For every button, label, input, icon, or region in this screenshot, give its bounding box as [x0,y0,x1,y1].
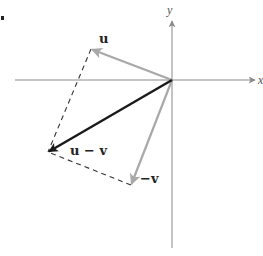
vector-neg-v-arrow [132,80,173,184]
vector-u-minus-v-arrow [49,80,172,152]
vector-diagram: x y u −v u − v [0,0,263,256]
dashed-edge-u-to-diff [48,49,91,152]
vector-u-minus-v-label: u − v [70,143,107,158]
x-axis-label: x [257,73,263,87]
vector-u-arrow [92,50,172,81]
vector-neg-v-label: −v [140,171,159,186]
vector-u-label: u [99,31,108,46]
corner-dot [1,16,4,20]
y-axis-label: y [166,3,173,17]
